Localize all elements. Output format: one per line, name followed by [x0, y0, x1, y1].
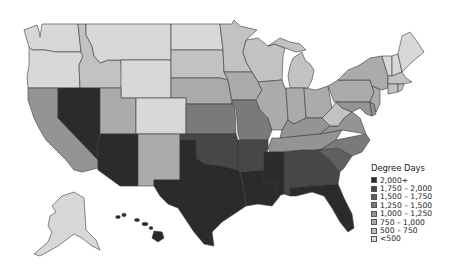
state-in [286, 88, 306, 124]
state-az [97, 134, 138, 186]
state-hi [116, 213, 164, 242]
legend-swatch [371, 202, 377, 208]
state-ri [398, 84, 404, 92]
state-nm [138, 134, 180, 186]
state-me [398, 32, 424, 72]
legend-swatch [371, 219, 377, 225]
state-nd [171, 24, 223, 50]
legend-swatch [371, 186, 377, 192]
state-wy [121, 60, 171, 98]
legend-label: <500 [380, 234, 401, 243]
state-ks [186, 104, 236, 134]
state-ct [388, 84, 398, 94]
legend: Degree Days 2,000+ 1,750 – 2,000 1,500 –… [371, 163, 455, 243]
legend-title: Degree Days [371, 163, 455, 173]
state-pa [328, 80, 374, 102]
state-wa [24, 24, 81, 52]
legend-swatch [371, 228, 377, 234]
state-sd [171, 50, 228, 80]
legend-item: <500 [371, 235, 455, 243]
state-or [27, 47, 83, 88]
legend-swatch [371, 236, 377, 242]
legend-swatch [371, 194, 377, 200]
state-ar [238, 140, 268, 172]
legend-swatch [371, 177, 377, 183]
state-mi [288, 52, 314, 88]
state-fl [290, 184, 354, 232]
state-ak [34, 192, 100, 256]
legend-swatch [371, 211, 377, 217]
state-mt [86, 24, 171, 63]
state-co [136, 98, 186, 134]
